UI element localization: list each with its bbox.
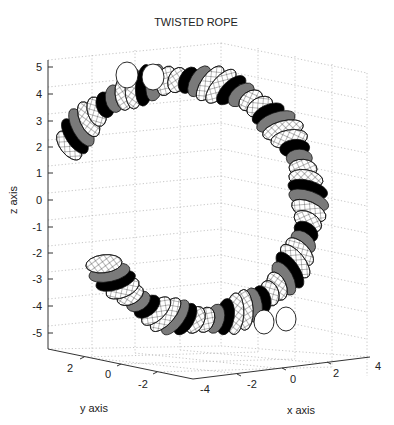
twisted-rope-figure: TWISTED ROPE 5 4 3 2 1 0 bbox=[0, 0, 394, 425]
svg-text:5: 5 bbox=[36, 61, 42, 73]
rope-end-cap bbox=[116, 62, 138, 88]
svg-text:0: 0 bbox=[36, 194, 42, 206]
svg-text:0: 0 bbox=[105, 368, 111, 380]
z-axis-ticks: 5 4 3 2 1 0 -1 -2 -3 -4 -5 bbox=[32, 61, 53, 339]
svg-text:2: 2 bbox=[36, 141, 42, 153]
svg-text:4: 4 bbox=[36, 88, 42, 100]
svg-text:-2: -2 bbox=[138, 378, 148, 390]
svg-text:4: 4 bbox=[375, 360, 381, 372]
svg-text:-2: -2 bbox=[247, 378, 257, 390]
svg-text:-4: -4 bbox=[200, 383, 210, 395]
z-axis-label: z axis bbox=[7, 185, 19, 214]
svg-text:-2: -2 bbox=[32, 247, 42, 259]
svg-text:1: 1 bbox=[36, 167, 42, 179]
y-axis-label: y axis bbox=[80, 402, 109, 414]
svg-text:-1: -1 bbox=[32, 221, 42, 233]
chart-title: TWISTED ROPE bbox=[154, 16, 238, 28]
rope-end-cap bbox=[142, 64, 164, 90]
x-axis-ticks: -4 -2 0 2 4 bbox=[200, 360, 381, 395]
svg-text:0: 0 bbox=[290, 373, 296, 385]
svg-text:3: 3 bbox=[36, 115, 42, 127]
svg-text:2: 2 bbox=[67, 362, 73, 374]
svg-text:-5: -5 bbox=[32, 327, 42, 339]
svg-text:-4: -4 bbox=[32, 300, 42, 312]
svg-text:-3: -3 bbox=[32, 273, 42, 285]
svg-text:2: 2 bbox=[333, 367, 339, 379]
rope-surface bbox=[52, 62, 332, 340]
rope-end-cap bbox=[276, 307, 296, 331]
x-axis-label: x axis bbox=[287, 404, 316, 416]
rope-end-cap bbox=[254, 310, 274, 334]
